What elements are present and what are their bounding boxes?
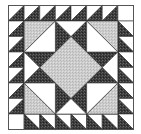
quilt-block [0, 0, 141, 134]
corner-square [118, 6, 134, 22]
quilt-pieces [9, 6, 134, 130]
corner-square [9, 114, 25, 130]
